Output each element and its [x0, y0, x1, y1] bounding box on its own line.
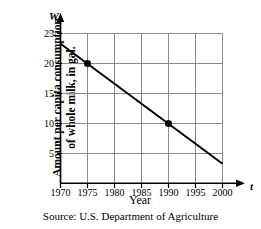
chart-figure: Amount per capita consumption of whole m… — [0, 0, 261, 229]
y-tick-label-5: 5 — [49, 148, 54, 159]
grid-vertical-lines — [61, 33, 223, 183]
y-axis-variable-label: W — [49, 10, 60, 22]
y-axis — [57, 13, 64, 183]
x-axis — [61, 180, 246, 187]
data-point-1975 — [84, 60, 91, 67]
y-tick-label-25: 25 — [44, 28, 54, 39]
x-axis-variable-label: t — [250, 180, 254, 192]
y-tick-label-20: 20 — [44, 58, 54, 69]
data-point-1990 — [165, 120, 172, 127]
y-tick-label-10: 10 — [44, 118, 54, 129]
source-note: Source: U.S. Department of Agriculture — [0, 210, 261, 222]
x-axis-caption: Year — [55, 193, 225, 208]
y-tick-label-15: 15 — [44, 88, 54, 99]
